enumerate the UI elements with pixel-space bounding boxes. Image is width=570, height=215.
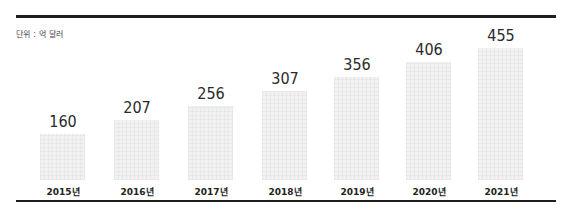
bottom-rule <box>16 200 556 202</box>
value-label-2015: 160 <box>33 112 93 131</box>
bar-2018 <box>262 91 307 180</box>
bar-2019 <box>334 77 379 180</box>
category-label-2018: 2018년 <box>255 185 315 198</box>
value-label-2016: 207 <box>107 98 167 117</box>
value-label-2018: 307 <box>255 69 315 88</box>
category-label-2021: 2021년 <box>471 185 531 198</box>
value-label-2021: 455 <box>471 26 531 45</box>
category-label-2015: 2015년 <box>33 185 93 198</box>
value-label-2020: 406 <box>399 40 459 59</box>
bar-2015 <box>40 134 85 180</box>
bar-2017 <box>188 106 233 180</box>
value-label-2019: 356 <box>327 55 387 74</box>
bar-chart: 160 207 256 307 356 406 455 2015년 2016년 … <box>0 0 570 215</box>
category-label-2017: 2017년 <box>181 185 241 198</box>
category-label-2020: 2020년 <box>399 185 459 198</box>
bar-2016 <box>114 120 159 180</box>
value-label-2017: 256 <box>181 84 241 103</box>
bar-2020 <box>406 62 451 180</box>
category-label-2019: 2019년 <box>327 185 387 198</box>
bar-2021 <box>478 48 523 180</box>
category-label-2016: 2016년 <box>107 185 167 198</box>
